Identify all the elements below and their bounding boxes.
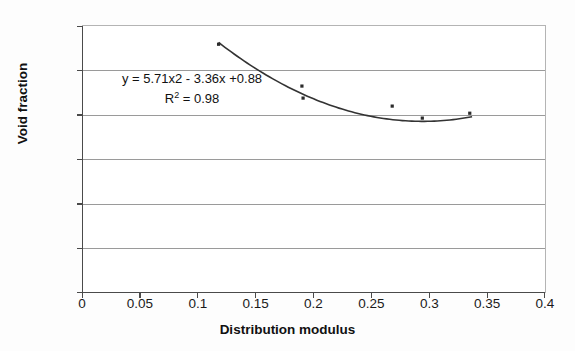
- xtick-label-0.2: 0.2: [304, 296, 323, 311]
- xtick-label-0.4: 0.4: [536, 296, 555, 311]
- r-squared-value: = 0.98: [179, 91, 219, 106]
- chart-container: 0.6 0.5 0.4 0.3 0.2 0.1 0 0 0.05 0.1 0.1…: [0, 0, 575, 351]
- data-point: [468, 112, 471, 115]
- xtick-label-0.35: 0.35: [474, 296, 500, 311]
- data-point: [421, 117, 424, 120]
- data-point: [300, 84, 303, 87]
- xtick-label-0: 0: [78, 296, 86, 311]
- equation-text: y = 5.71x2 - 3.36x +0.88: [92, 70, 292, 89]
- x-axis-title: Distribution modulus: [0, 322, 575, 337]
- data-point: [301, 96, 304, 99]
- y-axis-title: Void fraction: [15, 4, 30, 204]
- xtick-label-0.25: 0.25: [358, 296, 384, 311]
- r-squared-symbol: R: [165, 91, 174, 106]
- data-point: [217, 43, 220, 46]
- data-point: [391, 105, 394, 108]
- xtick-label-0.3: 0.3: [420, 296, 439, 311]
- xtick-label-0.15: 0.15: [242, 296, 268, 311]
- r-squared-text: R2 = 0.98: [92, 89, 292, 109]
- xtick-label-0.05: 0.05: [127, 296, 153, 311]
- equation-annotation: y = 5.71x2 - 3.36x +0.88 R2 = 0.98: [92, 70, 292, 109]
- xtick-label-0.1: 0.1: [188, 296, 207, 311]
- data-series-layer: [82, 26, 545, 293]
- plot-area: [82, 25, 546, 293]
